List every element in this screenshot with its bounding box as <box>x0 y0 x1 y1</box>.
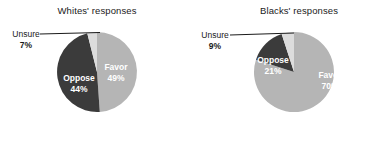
pie-label-whites-favor-name: Favor <box>104 62 127 72</box>
pie-callout-blacks-unsure-name: Unsure <box>195 30 235 41</box>
pie-label-blacks-favor: Favor 70% <box>312 70 348 91</box>
pie-label-whites-favor-pct: 49% <box>98 73 134 84</box>
pie-callout-whites-unsure: Unsure 7% <box>6 29 46 51</box>
pie-callout-blacks-unsure: Unsure 9% <box>195 30 235 52</box>
pie-callout-whites-unsure-pct: 7% <box>6 40 46 51</box>
pie-label-whites-oppose-pct: 44% <box>58 84 100 95</box>
pie-callout-blacks-unsure-pct: 9% <box>195 41 235 52</box>
pie-label-blacks-oppose: Oppose 21% <box>252 55 294 76</box>
pie-label-blacks-favor-name: Favor <box>318 70 341 80</box>
pie-label-whites-oppose: Oppose 44% <box>58 73 100 94</box>
chart-panel-blacks: Blacks' responses Favor 70% Oppose 21% U… <box>190 0 380 142</box>
chart-title-whites: Whites' responses <box>2 5 192 16</box>
chart-title-blacks: Blacks' responses <box>204 5 380 16</box>
pie-label-blacks-oppose-pct: 21% <box>252 66 294 77</box>
pie-label-whites-favor: Favor 49% <box>98 62 134 83</box>
pie-callout-whites-unsure-name: Unsure <box>6 29 46 40</box>
pie-label-blacks-favor-pct: 70% <box>312 81 348 92</box>
pie-label-whites-oppose-name: Oppose <box>63 73 95 83</box>
pie-chart-figure: Whites' responses Favor 49% Oppose 44% U… <box>0 0 380 142</box>
chart-panel-whites: Whites' responses Favor 49% Oppose 44% U… <box>0 0 190 142</box>
pie-label-blacks-oppose-name: Oppose <box>257 55 289 65</box>
